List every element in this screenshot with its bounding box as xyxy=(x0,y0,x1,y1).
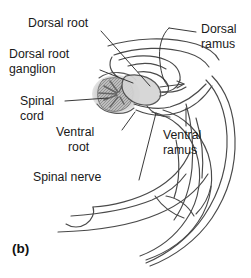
label-dorsal-ramus-line2: ramus xyxy=(201,37,235,51)
leader-spinal-nerve xyxy=(139,113,156,180)
label-spinal-cord-line1: Spinal xyxy=(20,94,54,108)
label-spinal-nerve: Spinal nerve xyxy=(33,170,102,184)
figure-caption: (b) xyxy=(12,241,29,256)
label-ventral-root-line2: root xyxy=(68,140,90,154)
label-ventral-ramus-line2: ramus xyxy=(163,143,197,157)
label-spinal-cord-line2: cord xyxy=(20,109,44,123)
label-dorsal-root-ganglion-line2: ganglion xyxy=(9,62,56,76)
label-ventral-ramus-line1: Ventral xyxy=(163,128,201,142)
label-dorsal-root-ganglion-line1: Dorsal root xyxy=(9,47,70,61)
leader-dorsal-ramus xyxy=(169,28,196,32)
ventral-ramus-shape xyxy=(140,76,235,266)
spinal-nerve-diagram: Dorsal root Dorsal root ganglion Spinal … xyxy=(0,0,251,278)
label-dorsal-root: Dorsal root xyxy=(28,16,89,30)
label-ventral-root-line1: Ventral xyxy=(56,125,94,139)
label-dorsal-ramus-line1: Dorsal xyxy=(201,22,237,36)
leader-ventral-root xyxy=(122,112,135,130)
